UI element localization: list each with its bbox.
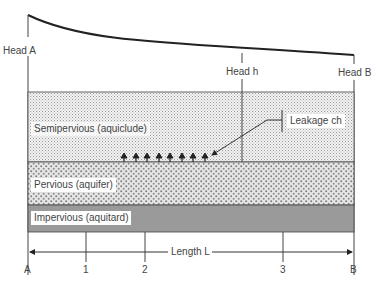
length-label: Length L xyxy=(171,246,210,258)
station-1: 1 xyxy=(83,264,89,276)
station-2: 2 xyxy=(142,264,148,276)
impervious-label: Impervious (aquitard) xyxy=(31,211,131,225)
semipervious-label: Semipervious (aquiclude) xyxy=(31,122,150,136)
head-b-label: Head B xyxy=(338,67,371,79)
head-curve xyxy=(28,15,354,55)
leakage-label: Leakage ch xyxy=(287,114,345,128)
station-a: A xyxy=(24,264,31,276)
pervious-label: Pervious (aquifer) xyxy=(31,178,116,192)
station-b: B xyxy=(350,264,357,276)
head-h-label: Head h xyxy=(226,66,258,78)
head-a-label: Head A xyxy=(3,45,36,57)
station-3: 3 xyxy=(280,264,286,276)
